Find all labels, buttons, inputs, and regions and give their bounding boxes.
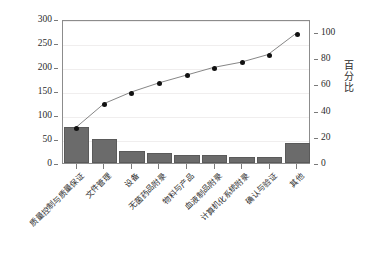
y-tick-mark-left: [54, 68, 58, 69]
line-marker: [295, 32, 300, 37]
y-tick-label-left: 50: [43, 135, 53, 145]
x-tick-label: 设备: [124, 172, 141, 189]
x-tick-label: 质量控制与质量保证: [29, 172, 86, 229]
y-axis-left: 050100150200250300: [18, 20, 58, 164]
x-tick-mark: [103, 164, 104, 169]
y-tick-mark-left: [54, 44, 58, 45]
y-tick-label-left: 150: [38, 87, 52, 97]
x-tick-label: 文件管理: [85, 172, 113, 200]
y-tick-mark-right: [314, 33, 318, 34]
y-tick-mark-left: [54, 164, 58, 165]
y-tick-mark-left: [54, 20, 58, 21]
y-tick-label-right: 40: [321, 107, 331, 117]
line-marker: [267, 53, 272, 58]
x-tick-mark: [214, 164, 215, 169]
x-tick-label: 其他: [289, 172, 306, 189]
x-tick-mark: [269, 164, 270, 169]
plot-area: [62, 20, 310, 164]
y-tick-mark-right: [314, 138, 318, 139]
x-tick-mark: [241, 164, 242, 169]
y-tick-label-left: 200: [38, 63, 52, 73]
y-axis-right-title: 百分比: [340, 60, 355, 93]
y-tick-mark-right: [314, 112, 318, 113]
y-tick-mark-right: [314, 59, 318, 60]
cumulative-line-series: [63, 21, 309, 163]
y-tick-label-left: 300: [38, 15, 52, 25]
x-tick-mark: [296, 164, 297, 169]
cumulative-line-path: [63, 21, 309, 163]
y-tick-label-right: 100: [321, 28, 335, 38]
y-tick-label-right: 60: [321, 80, 331, 90]
x-tick-mark: [158, 164, 159, 169]
y-tick-label-right: 20: [321, 133, 331, 143]
x-tick-mark: [131, 164, 132, 169]
pareto-chart: 050100150200250300 质量控制与质量保证文件管理设备无菌药品附录…: [0, 0, 368, 254]
x-tick-mark: [186, 164, 187, 169]
y-tick-mark-left: [54, 116, 58, 117]
y-tick-label-left: 0: [47, 159, 52, 169]
line-marker: [129, 91, 134, 96]
y-tick-mark-left: [54, 140, 58, 141]
y-tick-label-left: 100: [38, 111, 52, 121]
y-tick-label-left: 250: [38, 39, 52, 49]
y-tick-mark-left: [54, 92, 58, 93]
y-tick-label-right: 0: [321, 159, 326, 169]
y-tick-mark-right: [314, 85, 318, 86]
x-tick-mark: [76, 164, 77, 169]
y-tick-label-right: 80: [321, 54, 331, 64]
line-marker: [212, 66, 217, 71]
cumulative-line: [77, 34, 296, 127]
y-tick-mark-right: [314, 164, 318, 165]
